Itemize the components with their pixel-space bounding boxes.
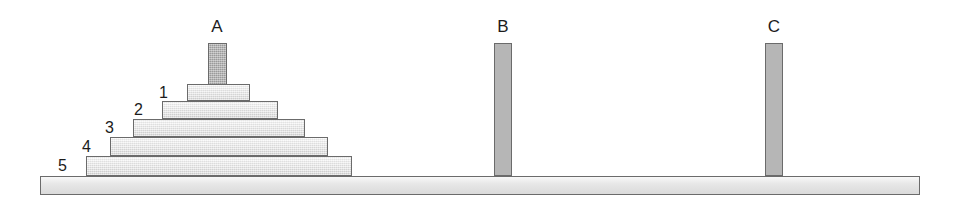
tower-of-hanoi-diagram: A B C 1 2 3 4 5 <box>0 0 960 209</box>
disk-1 <box>187 84 250 101</box>
peg-c <box>765 43 783 176</box>
base-board <box>40 176 920 195</box>
disk-3 <box>133 119 305 137</box>
disk-2 <box>162 101 278 119</box>
peg-a <box>208 43 227 88</box>
disk-label-1: 1 <box>138 85 168 101</box>
disk-label-3: 3 <box>84 120 114 136</box>
peg-b <box>494 43 512 176</box>
disk-label-4: 4 <box>61 139 91 155</box>
disk-5 <box>86 156 352 176</box>
peg-label-a: A <box>197 18 237 35</box>
peg-label-b: B <box>483 18 523 35</box>
disk-label-2: 2 <box>113 102 143 118</box>
disk-4 <box>110 137 328 156</box>
peg-label-c: C <box>754 18 794 35</box>
disk-label-5: 5 <box>37 158 67 174</box>
